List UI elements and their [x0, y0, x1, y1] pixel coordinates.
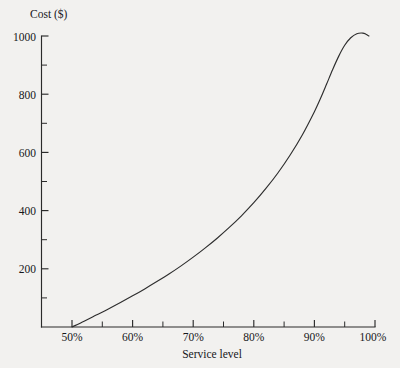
x-axis-group: 50% 60% 70% 80% 90% 100% Service level	[42, 320, 387, 360]
x-tick-label-60: 60%	[122, 331, 144, 343]
y-axis-ticks	[42, 36, 49, 298]
x-axis-tick-labels: 50% 60% 70% 80% 90% 100%	[61, 331, 386, 343]
y-tick-label-600: 600	[19, 147, 37, 159]
cost-service-level-chart: Cost ($) 1000 800 600 400 200	[0, 0, 400, 368]
x-tick-label-100: 100%	[360, 331, 387, 343]
y-tick-label-800: 800	[19, 89, 37, 101]
x-axis-title: Service level	[182, 348, 242, 360]
chart-canvas: Cost ($) 1000 800 600 400 200	[0, 0, 400, 368]
y-tick-label-400: 400	[19, 205, 37, 217]
x-tick-label-70: 70%	[183, 331, 205, 343]
y-tick-label-1000: 1000	[13, 31, 36, 43]
y-axis-group: 1000 800 600 400 200	[13, 31, 49, 328]
y-tick-label-200: 200	[19, 263, 37, 275]
y-axis-tick-labels: 1000 800 600 400 200	[13, 31, 36, 276]
x-tick-label-50: 50%	[61, 331, 83, 343]
x-tick-label-90: 90%	[304, 331, 326, 343]
x-axis-ticks	[72, 320, 375, 327]
y-axis-title: Cost ($)	[30, 8, 68, 21]
cost-curve-line	[72, 33, 369, 327]
x-tick-label-80: 80%	[243, 331, 265, 343]
